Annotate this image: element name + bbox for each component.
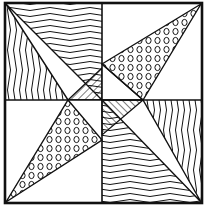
quadrant-bottom-right [102,100,201,202]
quadrant-top-left [6,4,102,100]
quadrant-bottom-left [6,100,102,202]
quadrant-top-right [102,4,201,100]
quilt-block-drawing [0,0,206,208]
